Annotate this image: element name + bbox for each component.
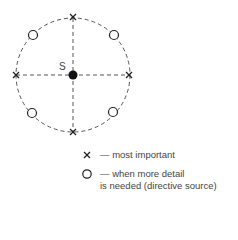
- circle-icon: [83, 170, 91, 178]
- legend-most-important: — most important: [100, 149, 175, 161]
- legend-more-detail-line1: — when more detail: [100, 168, 184, 180]
- cross-marker-right: [126, 72, 132, 78]
- circle-marker-top-left: [29, 31, 38, 40]
- center-label: S: [59, 61, 66, 72]
- circle-marker-bottom-left: [28, 109, 37, 118]
- circle-marker-top-right: [110, 31, 119, 40]
- center-point: [69, 71, 78, 80]
- legend-more-detail-line2: is needed (directive source): [100, 180, 217, 192]
- circle-marker-bottom-right: [109, 108, 118, 117]
- cross-icon: [84, 152, 90, 158]
